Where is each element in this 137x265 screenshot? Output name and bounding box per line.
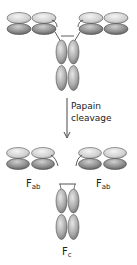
hinge-link-right <box>74 184 75 189</box>
arrow-label-line1: Papain <box>71 101 101 111</box>
light-chain-vl-domain <box>7 13 31 24</box>
arrow-label-line2: cleavage <box>71 113 112 123</box>
light-chain-vl-domain <box>104 148 127 159</box>
antibody-diagram: Papain cleavage Fab Fab Fc <box>0 0 137 265</box>
light-chain-cl-domain <box>32 148 55 159</box>
ch2-domain-left <box>56 40 67 64</box>
ch3-domain-left <box>56 215 67 240</box>
heavy-chain-ch1-domain <box>32 24 56 35</box>
light-chain-cl-domain <box>79 148 102 159</box>
heavy-chain-ch1-domain <box>79 159 102 170</box>
light-chain-cl-domain <box>79 13 103 24</box>
light-chain-vl-domain <box>7 148 30 159</box>
heavy-chain-vh-domain <box>7 159 30 170</box>
ch3-domain-right <box>68 66 79 91</box>
intact-antibody <box>7 13 128 91</box>
fab-fragment-right <box>76 148 127 170</box>
ch2-domain-left <box>56 189 67 213</box>
heavy-chain-vh-domain <box>104 159 127 170</box>
hinge-link-left <box>60 184 61 189</box>
light-chain-vl-domain <box>104 13 128 24</box>
fab-left-label: Fab <box>26 178 41 191</box>
fc-stem <box>56 40 79 91</box>
fab-fragment-left <box>7 148 59 170</box>
ch3-domain-left <box>56 66 67 91</box>
heavy-chain-ch1-domain <box>79 24 103 35</box>
ch2-domain-right <box>68 40 79 64</box>
light-chain-cl-domain <box>32 13 56 24</box>
fab-right-label: Fab <box>96 178 111 191</box>
cleavage-arrow <box>64 98 70 138</box>
heavy-chain-vh-domain <box>7 24 31 35</box>
ch2-domain-right <box>68 189 79 213</box>
fc-label: Fc <box>62 246 72 259</box>
heavy-chain-vh-domain <box>104 24 128 35</box>
left-fab-arm <box>7 13 61 43</box>
heavy-chain-ch1-domain <box>32 159 55 170</box>
right-fab-arm <box>74 13 128 43</box>
fc-fragment <box>56 184 79 240</box>
ch3-domain-right <box>68 215 79 240</box>
